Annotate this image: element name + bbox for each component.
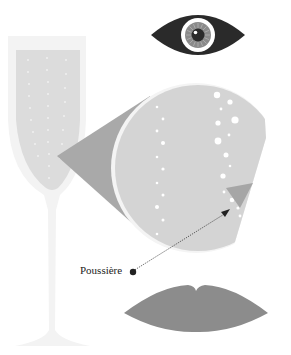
diagram-canvas <box>0 0 291 355</box>
champagne-glass <box>8 36 90 346</box>
lips-icon <box>124 285 268 332</box>
eye-icon <box>151 15 245 55</box>
dust-label: Poussière <box>80 264 122 276</box>
pointer-dot <box>130 269 136 275</box>
magnifier-view <box>115 85 281 251</box>
magnifier <box>111 83 281 253</box>
